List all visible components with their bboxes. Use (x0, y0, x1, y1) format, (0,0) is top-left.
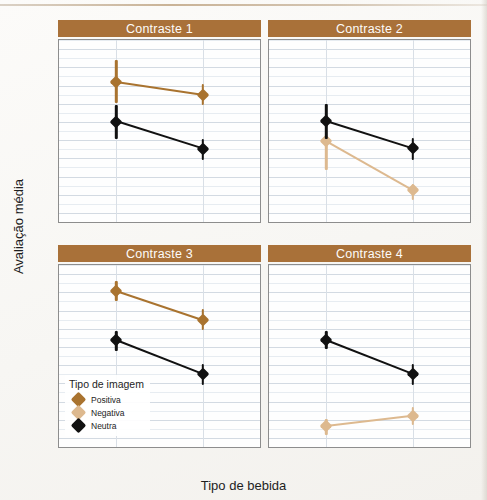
y-tick-mark (58, 311, 59, 312)
plot-area: 302520151050−5−10−15CervejaÁgua (58, 39, 261, 223)
legend-title: Tipo de imagem (69, 378, 144, 390)
plot-area: CervejaÁgua (268, 39, 471, 223)
data-point-neutra[interactable] (320, 334, 333, 347)
data-point-negativa[interactable] (320, 420, 333, 433)
y-tick-mark (58, 438, 59, 439)
series-line-positiva (116, 290, 203, 321)
legend-item-neutra[interactable]: Neutra (69, 419, 144, 432)
series-line-negativa (326, 415, 413, 427)
y-tick-mark (58, 329, 59, 330)
data-point-neutra[interactable] (196, 142, 209, 155)
panel-strip-label: Contraste 3 (58, 245, 261, 262)
data-point-neutra[interactable] (110, 334, 123, 347)
y-tick-mark (58, 104, 59, 105)
gridline-minor (59, 131, 260, 132)
y-tick-mark (58, 195, 59, 196)
y-tick-mark (58, 140, 59, 141)
y-tick-mark (58, 402, 59, 403)
series-line-negativa (326, 140, 414, 191)
panel-strip-label: Contraste 1 (58, 20, 261, 37)
x-tick-mark (326, 447, 327, 448)
data-point-neutra[interactable] (406, 367, 419, 380)
gridline-major (269, 177, 470, 178)
gridline-major (59, 158, 260, 159)
gridline-major (269, 140, 470, 141)
gridline-major (59, 86, 260, 87)
x-tick-mark (413, 222, 414, 223)
y-tick-mark (58, 49, 59, 50)
gridline-major (269, 402, 470, 403)
gridline-minor (269, 392, 470, 393)
panel-strip-label: Contraste 4 (268, 245, 471, 262)
data-point-neutra[interactable] (196, 368, 209, 381)
legend: Tipo de imagemPositivaNegativaNeutra (65, 375, 150, 436)
gridline-minor (269, 283, 470, 284)
y-tick-mark (58, 347, 59, 348)
gridline-major (269, 104, 470, 105)
gridline-category (203, 265, 204, 447)
gridline-minor (269, 265, 470, 266)
gridline-minor (59, 222, 260, 223)
gridline-minor (59, 320, 260, 321)
legend-item-label: Negativa (91, 408, 125, 418)
y-tick-mark (58, 274, 59, 275)
y-tick-mark (58, 177, 59, 178)
y-tick-mark (58, 420, 59, 421)
y-tick-mark (58, 86, 59, 87)
gridline-minor (269, 76, 470, 77)
series-line-neutra (116, 120, 203, 149)
gridline-major (269, 213, 470, 214)
y-tick-mark (58, 67, 59, 68)
gridline-category (203, 40, 204, 222)
gridline-major (59, 213, 260, 214)
gridline-major (269, 329, 470, 330)
gridline-minor (269, 374, 470, 375)
gridline-major (269, 438, 470, 439)
data-point-neutra[interactable] (320, 115, 333, 128)
x-tick-mark (116, 222, 117, 223)
gridline-minor (59, 149, 260, 150)
gridline-major (269, 122, 470, 123)
gridline-major (269, 274, 470, 275)
data-point-positiva[interactable] (196, 314, 209, 327)
faceted-line-chart: Avaliação média Tipo de bebida Contraste… (0, 0, 487, 500)
series-line-positiva (116, 81, 203, 96)
gridline-minor (59, 186, 260, 187)
legend-item-negativa[interactable]: Negativa (69, 406, 144, 419)
data-point-positiva[interactable] (110, 284, 123, 297)
data-point-neutra[interactable] (110, 115, 123, 128)
gridline-major (59, 347, 260, 348)
gridline-minor (59, 447, 260, 448)
gridline-minor (269, 95, 470, 96)
gridline-major (269, 347, 470, 348)
gridline-minor (59, 283, 260, 284)
gridline-minor (269, 58, 470, 59)
y-tick-mark (58, 365, 59, 366)
y-tick-mark (58, 292, 59, 293)
data-point-positiva[interactable] (196, 88, 209, 101)
data-point-neutra[interactable] (406, 142, 419, 155)
gridline-minor (59, 76, 260, 77)
x-tick-mark (326, 222, 327, 223)
gridline-minor (59, 113, 260, 114)
gridline-minor (269, 447, 470, 448)
y-tick-mark (58, 158, 59, 159)
gridline-minor (59, 338, 260, 339)
legend-item-positiva[interactable]: Positiva (69, 393, 144, 406)
gridline-major (59, 140, 260, 141)
gridline-major (59, 122, 260, 123)
series-line-neutra (116, 339, 203, 375)
gridline-minor (269, 149, 470, 150)
gridline-minor (59, 58, 260, 59)
gridline-major (59, 292, 260, 293)
gridline-major (59, 329, 260, 330)
gridline-minor (269, 222, 470, 223)
gridline-minor (269, 411, 470, 412)
gridline-major (59, 365, 260, 366)
legend-item-label: Positiva (91, 395, 121, 405)
y-tick-mark (58, 213, 59, 214)
gridline-minor (59, 204, 260, 205)
gridline-major (269, 383, 470, 384)
gridline-minor (269, 131, 470, 132)
gridline-major (59, 67, 260, 68)
